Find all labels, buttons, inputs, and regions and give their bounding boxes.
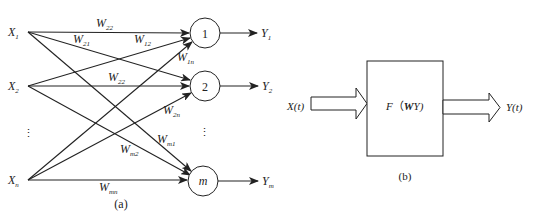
weight-label-w22: W22 [108,70,126,86]
output-label-yt: Y(t) [506,101,523,114]
input-label-x2: X2 [7,79,19,95]
neuron-2-label: 2 [202,80,208,94]
edge-x1-n1 [28,32,189,33]
neuron-1-label: 1 [202,27,208,41]
output-label-y1: Y1 [261,26,271,42]
network-diagram-a: 1 2 m X1 X2 Xn ⋮ ⋮ Y1 Y2 Ym W22 W21 W12 … [7,16,274,211]
diagram-canvas: 1 2 m X1 X2 Xn ⋮ ⋮ Y1 Y2 Ym W22 W21 W12 … [0,0,537,224]
input-ellipsis: ⋮ [23,127,34,139]
edge-x1-nm [28,32,191,171]
input-label-x1: X1 [7,25,19,41]
input-hollow-arrow [311,88,367,119]
output-label-ym: Ym [262,174,274,190]
weight-label-w22-top: W22 [96,16,114,32]
caption-a: (a) [114,197,127,211]
weight-label-w12: W12 [134,32,152,48]
weight-label-wm1: Wm1 [157,132,176,148]
edge-x2-nm [28,86,190,175]
block-diagram-b: X(t) Y(t) F（WY) (b) [286,61,523,183]
input-label-xn: Xn [7,173,19,189]
weight-label-w21: W21 [73,32,90,48]
weight-label-wm2: Wm2 [120,142,139,158]
weight-label-w1n: W1n [177,50,195,66]
block-function-label: F（WY) [385,100,424,113]
weight-label-wmn: Wmn [99,180,118,196]
neuron-ellipsis: ⋮ [199,126,210,138]
caption-b: (b) [399,170,412,183]
weight-label-w2n: W2n [163,103,181,119]
neuron-m-label: m [199,174,208,188]
output-label-y2: Y2 [262,79,273,95]
output-hollow-arrow [443,93,500,122]
input-label-xt: X(t) [286,100,304,113]
